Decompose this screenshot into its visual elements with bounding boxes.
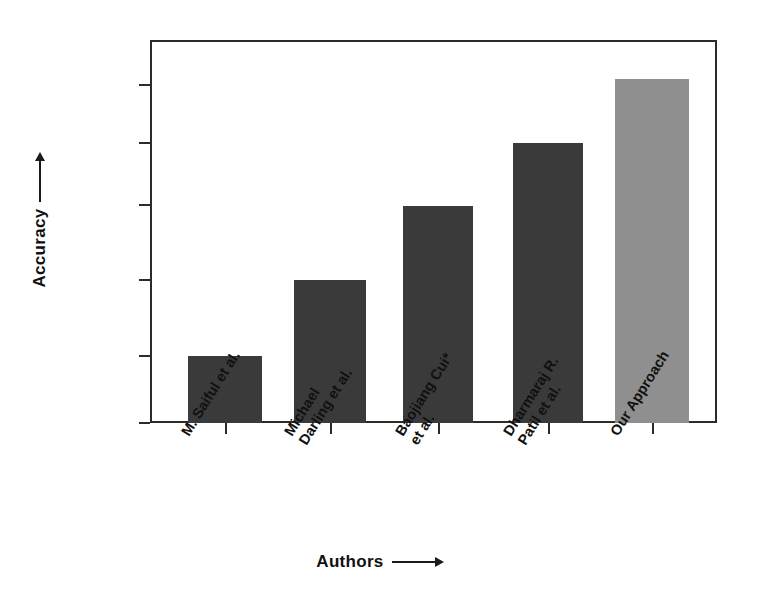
x-tick-mark-3 [548, 423, 550, 434]
y-tick-mark [139, 142, 150, 144]
x-tick-mark-0 [225, 423, 227, 434]
y-tick-mark [139, 204, 150, 206]
x-tick-mark-2 [438, 423, 440, 434]
x-tick-mark-1 [330, 423, 332, 434]
y-axis-title: Accuracy [30, 168, 50, 328]
x-axis-title: Authors [316, 552, 383, 571]
y-axis-title-group: Accuracy [18, 160, 62, 340]
x-tick-mark-4 [652, 423, 654, 434]
x-axis-title-group: Authors [0, 552, 760, 572]
y-tick-mark [139, 422, 150, 424]
bar-chart-figure: 99 98-99 98.70 98.20 97 0 Accuracy [0, 0, 760, 599]
y-tick-mark [139, 355, 150, 357]
right-arrow-icon [392, 557, 444, 569]
y-tick-mark [139, 84, 150, 86]
y-tick-mark [139, 279, 150, 281]
